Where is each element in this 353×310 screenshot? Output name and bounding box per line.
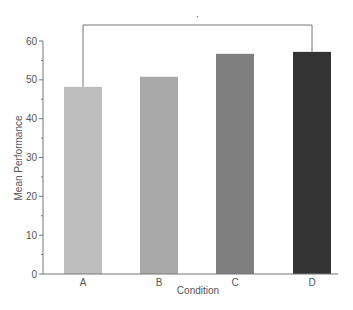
- y-tick-label: 50: [26, 74, 38, 85]
- y-axis: 0102030405060: [26, 36, 43, 280]
- bar-b: [140, 77, 178, 274]
- x-tick-label: D: [308, 277, 315, 288]
- x-tick-label: B: [156, 277, 163, 288]
- y-axis-title: Mean Performance: [13, 115, 24, 200]
- y-tick-label: 0: [31, 269, 37, 280]
- x-axis-title: Condition: [177, 285, 219, 296]
- y-tick-label: 60: [26, 36, 38, 47]
- significance-bracket: ·: [83, 11, 312, 87]
- bars-group: [64, 52, 331, 274]
- x-tick-label: C: [231, 277, 238, 288]
- y-tick-label: 30: [26, 152, 38, 163]
- x-tick-label: A: [80, 277, 87, 288]
- bar-d: [293, 52, 331, 274]
- y-tick-label: 20: [26, 191, 38, 202]
- bracket-line: [83, 25, 312, 87]
- bar-a: [64, 87, 102, 274]
- y-tick-label: 40: [26, 113, 38, 124]
- bar-chart: 0102030405060 ABCD · Condition Mean Perf…: [0, 0, 353, 310]
- y-tick-label: 10: [26, 230, 38, 241]
- bar-c: [216, 54, 254, 274]
- significance-asterisk: ·: [196, 11, 199, 22]
